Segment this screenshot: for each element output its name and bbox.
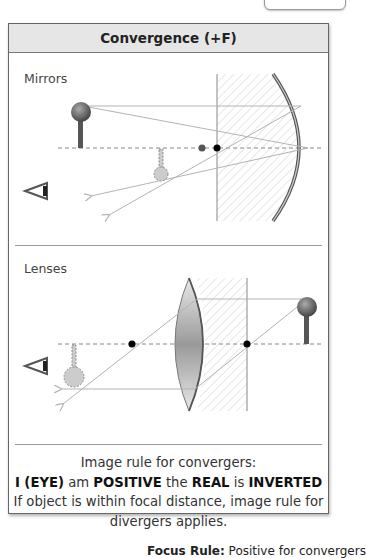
- section-divider: [15, 245, 322, 246]
- rule-line-1: Image rule for convergers:: [9, 453, 328, 473]
- mirror-object: [71, 102, 91, 148]
- section-divider: [15, 444, 322, 445]
- lenses-label: Lenses: [24, 261, 67, 276]
- mirror-center-point: [199, 145, 206, 152]
- lens-focal-point-left: [129, 341, 136, 348]
- rule-line-3: If object is within focal distance, imag…: [9, 492, 328, 512]
- lens-image: [64, 345, 84, 387]
- mirror-focal-point: [214, 145, 221, 152]
- mirrors-label: Mirrors: [24, 71, 67, 86]
- tab-stub: [264, 0, 346, 10]
- convex-lens: [175, 278, 203, 411]
- rule-text: am: [64, 475, 93, 490]
- focus-rule-footer: Focus Rule: Positive for convergers: [147, 544, 366, 558]
- eye-icon: [25, 183, 47, 199]
- focus-rule-text: Positive for convergers: [225, 544, 366, 558]
- rule-positive: POSITIVE: [93, 475, 161, 490]
- rule-line-4: divergers applies.: [9, 512, 328, 532]
- convergence-panel: Convergence (+F): [8, 23, 329, 514]
- rule-eye: I (EYE): [15, 475, 64, 490]
- mirror-image: [154, 149, 168, 181]
- lens-focal-point-right: [244, 341, 251, 348]
- rule-inverted: INVERTED: [248, 475, 322, 490]
- eye-icon: [25, 358, 47, 374]
- rule-text: is: [230, 475, 249, 490]
- focus-rule-label: Focus Rule:: [147, 544, 225, 558]
- rule-line-2: I (EYE) am POSITIVE the REAL is INVERTED: [9, 473, 328, 493]
- rule-real: REAL: [192, 475, 230, 490]
- image-rule: Image rule for convergers: I (EYE) am PO…: [9, 453, 328, 531]
- rule-text: the: [162, 475, 192, 490]
- lens-object: [297, 297, 317, 344]
